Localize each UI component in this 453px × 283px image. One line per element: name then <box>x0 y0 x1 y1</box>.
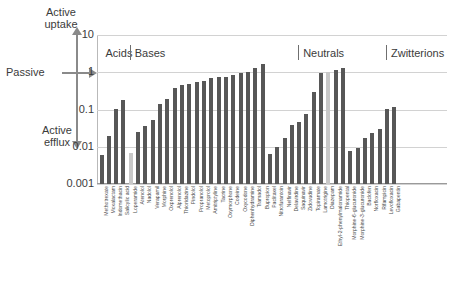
x-axis-label: Propranolol <box>199 186 204 212</box>
bar <box>348 151 352 184</box>
bar <box>114 109 118 184</box>
x-axis-label: Baclofen <box>367 186 372 206</box>
x-axis-label: Oxycodone <box>243 186 248 212</box>
x-axis-label: Oxymorphone <box>228 186 233 218</box>
bar <box>187 84 191 184</box>
bar <box>224 77 228 184</box>
bar <box>363 138 367 184</box>
x-axis-label: Oxprenolol <box>169 186 174 211</box>
gridline <box>97 184 447 185</box>
y-axis-tick: 10 <box>82 28 94 40</box>
group-separator <box>298 45 299 60</box>
bar <box>209 78 213 184</box>
bar <box>268 154 272 184</box>
x-axis-label: Metoprolol <box>206 186 211 210</box>
x-axis-label: Tramadol <box>257 186 262 207</box>
group-label-acids: Acids <box>106 47 133 59</box>
x-axis-label: Verapamil <box>155 186 160 209</box>
x-axis-label: Diazepam <box>330 186 335 209</box>
y-axis: 1010.10.010.001 <box>56 0 94 190</box>
bar <box>202 81 206 184</box>
bar <box>370 133 374 184</box>
gridline <box>97 72 447 73</box>
x-axis-label: Tacrine <box>221 186 226 202</box>
x-axis-label: Methotrexate <box>104 186 109 216</box>
x-axis-labels: MethotrexateMoxalactamIndomethacinSalicy… <box>97 186 453 282</box>
x-axis-label: Morphine <box>162 186 167 207</box>
x-axis-label: Paclitaxel <box>272 186 277 208</box>
bar <box>253 68 257 184</box>
x-axis-label: Rifampicin <box>382 186 387 210</box>
x-axis-label: Salicylic acid <box>125 186 130 215</box>
x-axis-label: Indomethacin <box>118 186 123 217</box>
passive-label: Passive <box>6 66 62 78</box>
x-axis-label: Alprenolol <box>177 186 182 209</box>
x-axis-label: Bupropion <box>265 186 270 209</box>
bar <box>378 129 382 184</box>
group-label-neutrals: Neutrals <box>303 47 344 59</box>
bar <box>319 73 323 184</box>
x-axis-label: Morphine-3-glucuronide <box>360 186 365 240</box>
bar <box>151 120 155 184</box>
x-axis-label: Atenolol <box>140 186 145 204</box>
x-axis-label: Nadolol <box>147 186 152 203</box>
x-axis-label: Nitrofurantoin <box>279 186 284 217</box>
x-axis-label: Topiramate <box>316 186 321 211</box>
bar <box>312 92 316 184</box>
x-axis-label: Levofloxacin <box>389 186 394 214</box>
bar <box>239 73 243 184</box>
bar <box>275 147 279 184</box>
x-axis-label: Moxalactam <box>111 186 116 213</box>
x-axis-label: Thioridazine <box>184 186 189 214</box>
bar <box>392 107 396 184</box>
x-axis-label: Lamotrigine <box>323 186 328 213</box>
bar <box>231 75 235 184</box>
x-axis-label: Gabapentin <box>396 186 401 212</box>
x-axis-label: Morphine-6-glucuronide <box>352 186 357 240</box>
bar <box>136 132 140 184</box>
bar <box>334 70 338 184</box>
bar <box>297 122 301 184</box>
bar <box>385 109 389 184</box>
group-separator <box>130 45 131 60</box>
bar <box>100 155 104 184</box>
group-separator <box>386 45 387 60</box>
x-axis-label: Amitriptyline <box>213 186 218 214</box>
x-axis-label: Diphenhydramine <box>250 186 255 226</box>
x-axis-label: Loperamide <box>133 186 138 213</box>
x-axis-label: Zidovudine <box>308 186 313 211</box>
bar <box>326 72 330 184</box>
x-axis-label: Delavirdine <box>294 186 299 211</box>
y-axis-tick: 0.01 <box>73 140 94 152</box>
gridline <box>97 35 447 36</box>
bar <box>121 100 125 184</box>
x-axis-label: Pindolol <box>191 186 196 204</box>
bar-chart: Activeuptake Activeefflux Passive 1010.1… <box>0 0 453 283</box>
x-axis-label: Nelfinavir <box>287 186 292 207</box>
bar <box>129 153 133 184</box>
bar <box>290 125 294 184</box>
x-axis-label: Saquinavir <box>301 186 306 210</box>
bar <box>165 99 169 184</box>
bar <box>173 88 177 184</box>
bar <box>356 148 360 184</box>
bar <box>246 72 250 184</box>
bar <box>180 85 184 184</box>
bar <box>283 138 287 184</box>
y-axis-tick: 0.1 <box>79 103 94 115</box>
bar <box>195 82 199 184</box>
y-axis-tick: 1 <box>88 65 94 77</box>
bar <box>143 126 147 184</box>
group-label-zwitterions: Zwitterions <box>391 47 444 59</box>
bar <box>158 104 162 185</box>
bar <box>217 77 221 184</box>
bar <box>107 136 111 184</box>
group-label-bases: Bases <box>135 47 166 59</box>
bar <box>304 114 308 184</box>
x-axis-label: Norfloxacin <box>374 186 379 211</box>
bar <box>341 68 345 184</box>
bar <box>261 64 265 184</box>
x-axis-label: Codeine <box>235 186 240 205</box>
x-axis-label: Ethyl-2-phenylmalonamide <box>338 186 343 246</box>
y-axis-tick: 0.001 <box>66 177 94 189</box>
